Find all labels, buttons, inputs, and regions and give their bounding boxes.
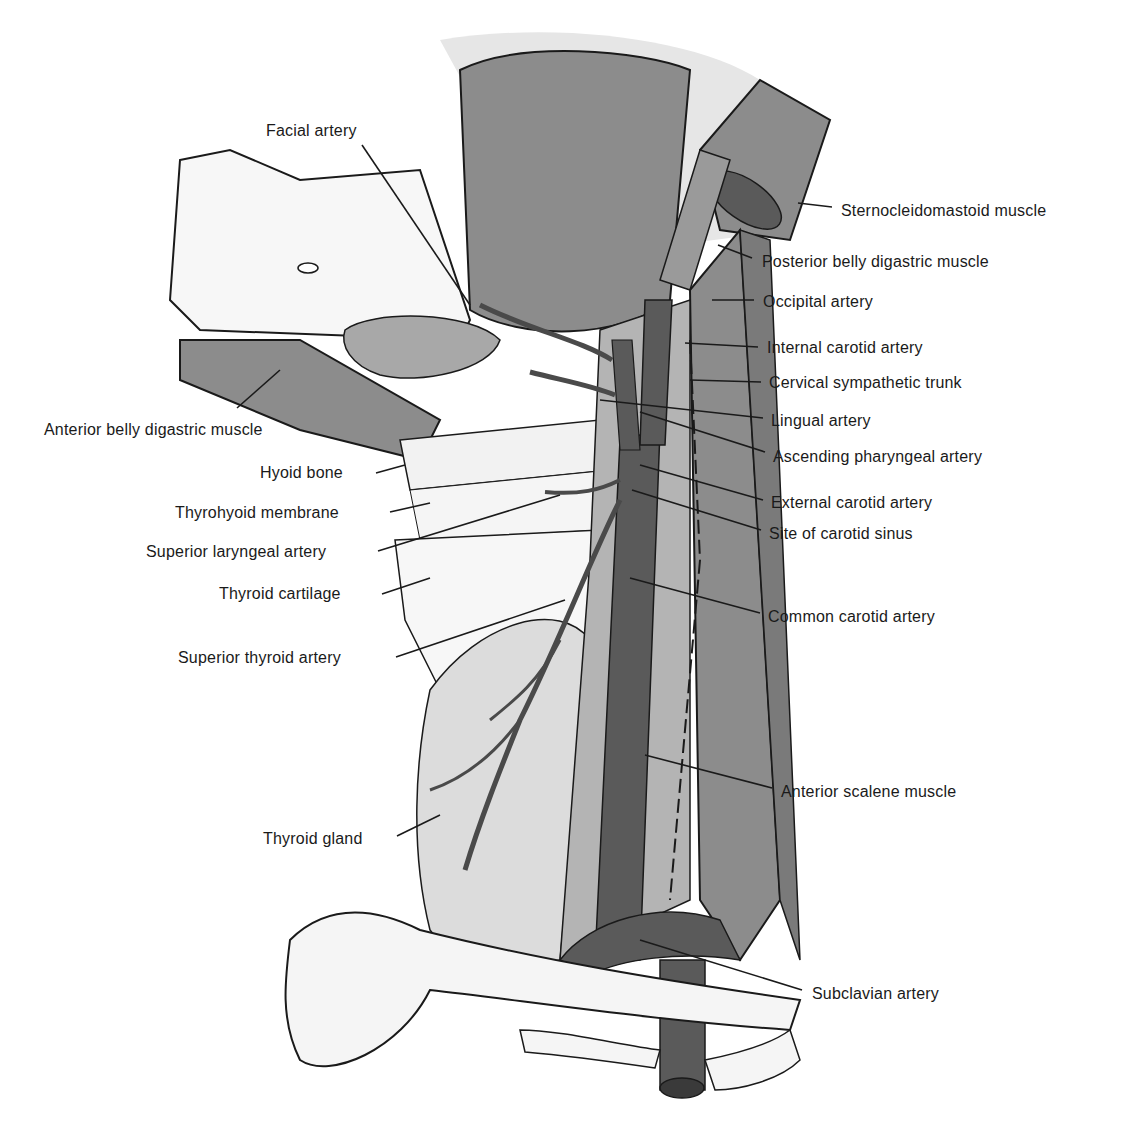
label-posterior-belly-digastric-muscle: Posterior belly digastric muscle xyxy=(762,253,989,271)
label-anterior-scalene-muscle: Anterior scalene muscle xyxy=(781,783,956,801)
vertebral-artery-cut xyxy=(660,1078,704,1098)
label-common-carotid-artery: Common carotid artery xyxy=(768,608,935,626)
label-occipital-artery: Occipital artery xyxy=(763,293,873,311)
mandible-bone xyxy=(170,150,470,340)
mental-foramen xyxy=(298,263,318,273)
submandibular-gland xyxy=(344,316,500,378)
first-rib-right xyxy=(705,1030,800,1090)
label-superior-thyroid-artery: Superior thyroid artery xyxy=(178,649,341,667)
label-thyroid-gland: Thyroid gland xyxy=(263,830,363,848)
label-superior-laryngeal-artery: Superior laryngeal artery xyxy=(146,543,326,561)
masseter-muscle xyxy=(460,51,690,331)
leader-sternocleidomastoid-muscle xyxy=(798,203,832,207)
label-thyroid-cartilage: Thyroid cartilage xyxy=(219,585,341,603)
label-internal-carotid-artery: Internal carotid artery xyxy=(767,339,923,357)
label-ascending-pharyngeal-artery: Ascending pharyngeal artery xyxy=(773,448,982,466)
label-facial-artery: Facial artery xyxy=(266,122,357,140)
label-anterior-belly-digastric-muscle: Anterior belly digastric muscle xyxy=(44,421,263,439)
label-lingual-artery: Lingual artery xyxy=(771,412,871,430)
label-cervical-sympathetic-trunk: Cervical sympathetic trunk xyxy=(769,374,962,392)
leader-hyoid-bone xyxy=(376,465,405,473)
label-thyrohyoid-membrane: Thyrohyoid membrane xyxy=(175,504,339,522)
label-external-carotid-artery: External carotid artery xyxy=(771,494,932,512)
neck-anatomy-illustration xyxy=(0,0,1134,1127)
first-rib-left xyxy=(520,1030,660,1068)
label-hyoid-bone: Hyoid bone xyxy=(260,464,343,482)
anatomy-figure: Facial artery Sternocleidomastoid muscle… xyxy=(0,0,1134,1127)
label-site-of-carotid-sinus: Site of carotid sinus xyxy=(769,525,913,543)
label-sternocleidomastoid-muscle: Sternocleidomastoid muscle xyxy=(841,202,1046,220)
label-subclavian-artery: Subclavian artery xyxy=(812,985,939,1003)
